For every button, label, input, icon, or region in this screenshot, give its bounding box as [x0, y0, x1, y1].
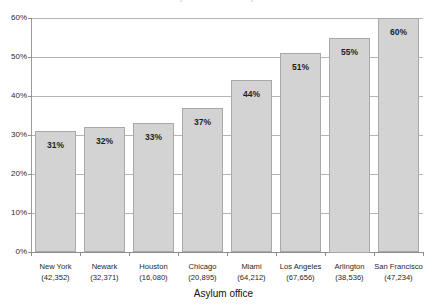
- y-tick-mark: [28, 174, 32, 175]
- x-category-label: Miami(64,212): [227, 261, 276, 283]
- x-tick-mark: [31, 252, 32, 256]
- bar-value-label: 33%: [134, 133, 173, 142]
- x-category-label: Los Angeles(67,656): [276, 261, 325, 283]
- x-category-label: Chicago(20,895): [178, 261, 227, 283]
- y-tick-label: 60%: [0, 14, 27, 22]
- y-tick-label: 40%: [0, 92, 27, 100]
- y-tick-mark: [28, 57, 32, 58]
- y-tick-label: 30%: [0, 131, 27, 139]
- x-category-name: San Francisco: [374, 261, 423, 272]
- bar-value-label: 51%: [281, 63, 320, 72]
- x-category-count: (64,212): [227, 272, 276, 283]
- x-category-count: (20,895): [178, 272, 227, 283]
- y-tick-mark: [28, 18, 32, 19]
- bar: 32%: [84, 127, 125, 252]
- bar-chart: 0%10%20%30%40%50%60% 31%32%33%37%44%51%5…: [0, 0, 447, 306]
- x-category-count: (47,234): [374, 272, 423, 283]
- x-tick-mark: [178, 252, 179, 256]
- x-category-name: New York: [31, 261, 80, 272]
- x-category-count: (32,371): [80, 272, 129, 283]
- x-category-name: Houston: [129, 261, 178, 272]
- bar-value-label: 55%: [330, 48, 369, 57]
- bar: 51%: [280, 53, 321, 252]
- x-category-count: (16,080): [129, 272, 178, 283]
- x-category-label: Houston(16,080): [129, 261, 178, 283]
- y-tick-mark: [28, 213, 32, 214]
- x-category-label: Arlington(38,536): [325, 261, 374, 283]
- bar-value-label: 31%: [36, 141, 75, 150]
- bar-value-label: 44%: [232, 90, 271, 99]
- x-category-name: Arlington: [325, 261, 374, 272]
- y-tick-label: 50%: [0, 53, 27, 61]
- x-tick-mark: [325, 252, 326, 256]
- bar-value-label: 60%: [379, 28, 418, 37]
- bar: 55%: [329, 38, 370, 253]
- bar: 31%: [35, 131, 76, 252]
- y-tick-label: 20%: [0, 170, 27, 178]
- x-category-label: San Francisco(47,234): [374, 261, 423, 283]
- x-category-name: Los Angeles: [276, 261, 325, 272]
- bar: 37%: [182, 108, 223, 252]
- x-category-name: Newark: [80, 261, 129, 272]
- x-tick-mark: [423, 252, 424, 256]
- x-category-label: New York(42,352): [31, 261, 80, 283]
- bar: 33%: [133, 123, 174, 252]
- y-tick-label: 10%: [0, 209, 27, 217]
- x-category-count: (38,536): [325, 272, 374, 283]
- x-tick-mark: [80, 252, 81, 256]
- bar: 60%: [378, 18, 419, 252]
- x-tick-mark: [276, 252, 277, 256]
- x-axis-title: Asylum office: [0, 288, 447, 299]
- x-tick-mark: [227, 252, 228, 256]
- bar-value-label: 32%: [85, 137, 124, 146]
- x-tick-mark: [129, 252, 130, 256]
- y-tick-mark: [28, 96, 32, 97]
- gridline-60pct: [31, 18, 423, 19]
- x-tick-mark: [374, 252, 375, 256]
- y-tick-label: 0%: [0, 248, 27, 256]
- x-category-count: (42,352): [31, 272, 80, 283]
- bar-value-label: 37%: [183, 118, 222, 127]
- x-category-name: Chicago: [178, 261, 227, 272]
- bar: 44%: [231, 80, 272, 252]
- x-category-name: Miami: [227, 261, 276, 272]
- x-category-label: Newark(32,371): [80, 261, 129, 283]
- y-tick-mark: [28, 135, 32, 136]
- x-category-count: (67,656): [276, 272, 325, 283]
